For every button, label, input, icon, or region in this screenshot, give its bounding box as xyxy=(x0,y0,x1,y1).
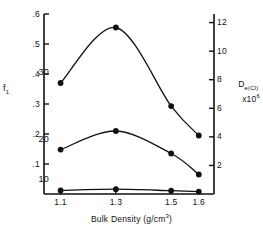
y-tick-label-right-1: 4 xyxy=(217,132,233,141)
y-axis-left-title: f1 xyxy=(3,84,9,95)
x-tick-label-2: 1.5 xyxy=(159,198,183,207)
y-tick-label-left-0: .1 xyxy=(24,160,40,169)
y-tick-label-left-5: .6 xyxy=(24,10,40,19)
data-point-10-2 xyxy=(168,188,174,194)
data-series xyxy=(58,25,202,195)
y-tick-label-left-4: .5 xyxy=(24,40,40,49)
y-tick-label-right-5: 12 xyxy=(217,18,233,27)
y-axis-right-title-multiplier: x10 xyxy=(242,94,256,104)
x-axis-title-close: ) xyxy=(169,214,172,224)
chart-figure: .1.2.3.4.5.6246810121.11.31.51.6 302010 … xyxy=(0,0,263,232)
y-axis-right-title-exponent: 6 xyxy=(256,93,260,99)
y-tick-label-right-3: 8 xyxy=(217,75,233,84)
x-tick-label-1: 1.3 xyxy=(104,198,128,207)
x-axis-title: Bulk Density (g/cm3) xyxy=(0,213,263,223)
y-tick-label-right-0: 2 xyxy=(217,161,233,170)
y-axis-right-title: De(Cl) x106 xyxy=(238,80,260,103)
data-point-30-3 xyxy=(196,133,202,139)
data-point-30-2 xyxy=(168,103,174,109)
series-20 xyxy=(58,128,202,177)
data-point-20-0 xyxy=(58,147,64,153)
y-tick-label-left-2: .3 xyxy=(24,100,40,109)
y-axis-right-title-subscript: e(Cl) xyxy=(244,85,258,91)
series-label-30: 30 xyxy=(39,68,49,77)
series-30 xyxy=(58,25,202,139)
data-point-10-1 xyxy=(113,186,119,192)
y-axis-right-title-line1: De(Cl) xyxy=(238,79,258,89)
data-point-30-1 xyxy=(113,25,119,31)
x-tick-label-3: 1.6 xyxy=(187,198,211,207)
data-point-10-3 xyxy=(196,189,202,195)
y-tick-label-right-4: 10 xyxy=(217,47,233,56)
series-line-10 xyxy=(61,189,199,191)
data-point-20-2 xyxy=(168,151,174,157)
y-tick-label-right-2: 6 xyxy=(217,104,233,113)
series-line-20 xyxy=(61,131,199,175)
chart-plot-area xyxy=(0,0,263,232)
data-point-30-0 xyxy=(58,80,64,86)
series-label-20: 20 xyxy=(39,135,49,144)
data-point-20-1 xyxy=(113,128,119,134)
y-axis-right-title-line2: x106 xyxy=(242,93,260,103)
x-tick-label-0: 1.1 xyxy=(49,198,73,207)
y-axis-left-title-subscript: 1 xyxy=(6,89,10,95)
data-point-20-3 xyxy=(196,172,202,178)
x-axis-title-base: Bulk Density (g/cm xyxy=(91,214,165,224)
series-label-10: 10 xyxy=(39,175,49,184)
data-point-10-0 xyxy=(58,188,64,194)
series-line-30 xyxy=(61,27,199,135)
axis-ticks xyxy=(44,14,214,194)
axes xyxy=(44,14,214,194)
